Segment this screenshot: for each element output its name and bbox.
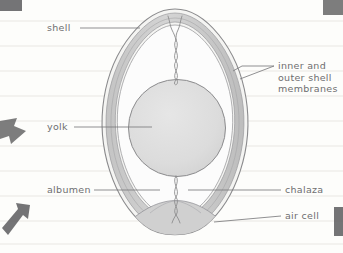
corner-mark-top-right-icon <box>323 0 343 15</box>
label-membranes-line-1: inner and <box>278 60 338 72</box>
diagram-page: shell yolk albumen inner and outer shell… <box>0 0 343 253</box>
label-shell: shell <box>47 22 71 34</box>
label-albumen: albumen <box>47 184 91 196</box>
arrow-left-bottom-icon <box>2 203 30 235</box>
label-membranes-line-2: outer shell <box>278 72 338 84</box>
arrow-left-middle-icon <box>0 118 26 144</box>
corner-mark-top-left-icon <box>0 0 22 11</box>
label-shell-membranes: inner and outer shell membranes <box>278 60 338 95</box>
label-chalaza: chalaza <box>285 184 323 196</box>
corner-mark-right-bottom-icon <box>334 207 343 236</box>
label-yolk: yolk <box>47 121 68 133</box>
label-air-cell: air cell <box>285 210 319 222</box>
label-membranes-line-3: membranes <box>278 83 338 95</box>
